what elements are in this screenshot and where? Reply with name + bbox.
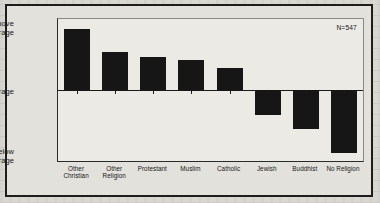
- x-axis-tick: [230, 90, 231, 94]
- y-axis-label-average: Average: [0, 88, 14, 97]
- bar-protestant: [140, 57, 166, 90]
- y-axis-label-below-average: Below Average: [0, 148, 14, 165]
- bar-other-religion: [102, 52, 128, 90]
- x-axis-tick: [153, 90, 154, 94]
- y-axis-label-above-average: Above Average: [0, 20, 14, 37]
- bar-chart: Above Average Average Below Average N=54…: [7, 6, 371, 195]
- x-axis-tick: [191, 90, 192, 94]
- x-axis-labels: OtherChristianOtherReligionProtestantMus…: [57, 165, 364, 189]
- plot-inner: N=547: [58, 19, 363, 161]
- x-axis-tick: [115, 90, 116, 94]
- y-axis-label-above-line2: Average: [0, 29, 14, 38]
- sample-size-annotation: N=547: [336, 24, 357, 31]
- x-axis-tick: [268, 90, 269, 94]
- plot-area: N=547: [57, 18, 364, 162]
- bar-muslim: [178, 60, 204, 90]
- x-axis-tick: [344, 90, 345, 94]
- bar-buddhist: [293, 90, 319, 129]
- bar-series: [58, 19, 363, 161]
- figure-frame: Above Average Average Below Average N=54…: [5, 4, 373, 197]
- y-axis-label-below-line2: Average: [0, 157, 14, 166]
- bar-no-religion: [331, 90, 357, 153]
- x-axis-tick: [306, 90, 307, 94]
- x-axis-label-no-religion: No Religion: [321, 165, 365, 172]
- bar-other-christian: [64, 29, 90, 90]
- bar-catholic: [217, 68, 243, 90]
- x-axis-tick: [77, 90, 78, 94]
